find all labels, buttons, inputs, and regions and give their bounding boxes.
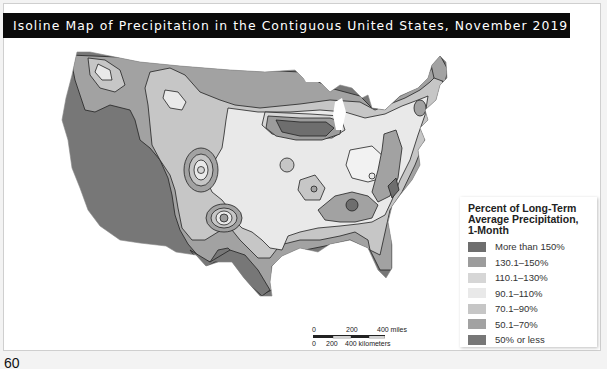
legend-item-50-70: 50.1–70% [468, 317, 591, 333]
legend-swatch [468, 242, 486, 252]
lake-superior [300, 68, 335, 82]
legend-item-110-130: 110.1–130% [468, 270, 591, 286]
precipitation-bands [50, 40, 470, 310]
legend-item-70-90: 70.1–90% [468, 301, 591, 317]
legend-swatch [468, 273, 486, 283]
legend-item-more-than-150: More than 150% [468, 239, 591, 255]
legend: Percent of Long-Term Average Precipitati… [460, 197, 597, 347]
legend-swatch [468, 304, 486, 314]
page-number: 60 [4, 356, 20, 369]
legend-item-50-or-less: 50% or less [468, 332, 591, 348]
legend-swatch [468, 257, 486, 267]
legend-swatch [468, 319, 486, 329]
scale-bar: 0 200 400 miles 0 200 400 kilometers [310, 326, 430, 350]
legend-item-90-110: 90.1–110% [468, 286, 591, 302]
legend-title: Percent of Long-Term Average Precipitati… [468, 203, 591, 236]
legend-item-130-150: 130.1–150% [468, 255, 591, 271]
legend-swatch [468, 335, 486, 345]
legend-swatch [468, 288, 486, 298]
